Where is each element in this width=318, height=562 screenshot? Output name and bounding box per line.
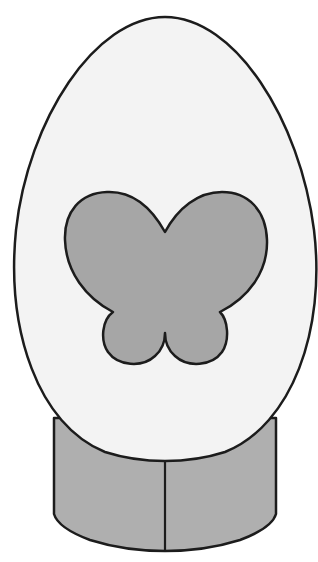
egg-on-stand-illustration: [0, 0, 318, 562]
illustration-canvas: [0, 0, 318, 562]
